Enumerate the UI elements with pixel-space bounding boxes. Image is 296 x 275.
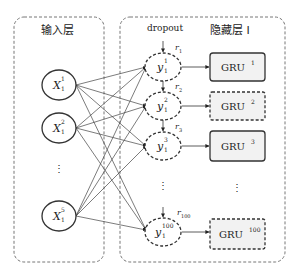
gru-unit-2: GRU 2 [210,92,265,120]
input-layer-title: 输入层 [41,23,74,37]
dropout-node-100-sup: 100 [162,222,174,229]
dropout-node-2-sub: 1 [164,106,168,113]
dropout-node-2-sup: 2 [164,96,168,103]
input-node-1-sup: 1 [61,75,65,82]
dropout-node-1-label: y [156,61,164,74]
input-to-dropout-connections [76,67,146,230]
input-ellipsis: ⋮ [54,163,64,174]
gru-unit-3-label: GRU [221,141,245,152]
input-node-5-sub: 1 [61,216,65,223]
dropout-node-2: y 2 1 r 2 [145,82,182,120]
gru-unit-2-label: GRU [221,101,245,112]
gru-unit-1-sup: 1 [251,59,255,66]
gru-unit-3: GRU 3 [210,131,265,161]
input-node-5: X 5 1 [42,201,76,231]
dropout-node-3-label: y [156,140,164,153]
dropout-node-3-sup: 3 [164,136,168,143]
gru-unit-100: GRU 100 [210,219,265,249]
dropout-to-gru-arrows [182,67,209,232]
gru-ellipsis: ⋮ [232,182,242,193]
dropout-node-3-sub: 1 [164,146,168,153]
dropout-node-3: y 3 1 r 3 [145,122,182,160]
gru-unit-1-label: GRU [221,62,245,73]
dropout-node-100: y 100 1 r 100 [145,208,191,246]
dropout-node-1: y 1 1 r 1 [145,43,182,81]
dropout-rate-1-sub: 1 [179,48,182,54]
input-node-2: X 2 1 [42,113,76,143]
input-node-2-sub: 1 [61,128,65,135]
dropout-node-2-label: y [156,100,164,113]
gru-unit-2-sup: 2 [251,98,255,105]
dropout-node-1-sub: 1 [164,67,168,74]
input-node-1-sub: 1 [61,85,65,92]
gru-unit-1: GRU 1 [210,53,265,81]
input-node-5-sup: 5 [61,206,65,213]
input-node-1: X 1 1 [42,70,76,100]
hidden-layer-title: 隐藏层 I [210,24,250,37]
dropout-ellipsis: ⋮ [158,180,168,191]
dropout-rate-2-sub: 2 [179,87,182,93]
dropout-title: dropout [147,23,183,33]
gru-unit-100-sup: 100 [249,226,261,233]
input-node-2-sup: 2 [61,118,65,125]
dropout-node-100-sub: 1 [162,232,166,239]
dropout-node-1-sup: 1 [164,57,168,64]
dropout-rate-3-sub: 3 [179,127,182,133]
dropout-rate-100-sub: 100 [181,213,191,219]
gru-unit-3-sup: 3 [251,138,255,145]
gru-unit-100-label: GRU [219,229,243,240]
network-diagram: 输入层 dropout 隐藏层 I X 1 1 X 2 1 ⋮ X 5 1 [0,0,296,275]
dropout-node-100-label: y [154,226,162,239]
